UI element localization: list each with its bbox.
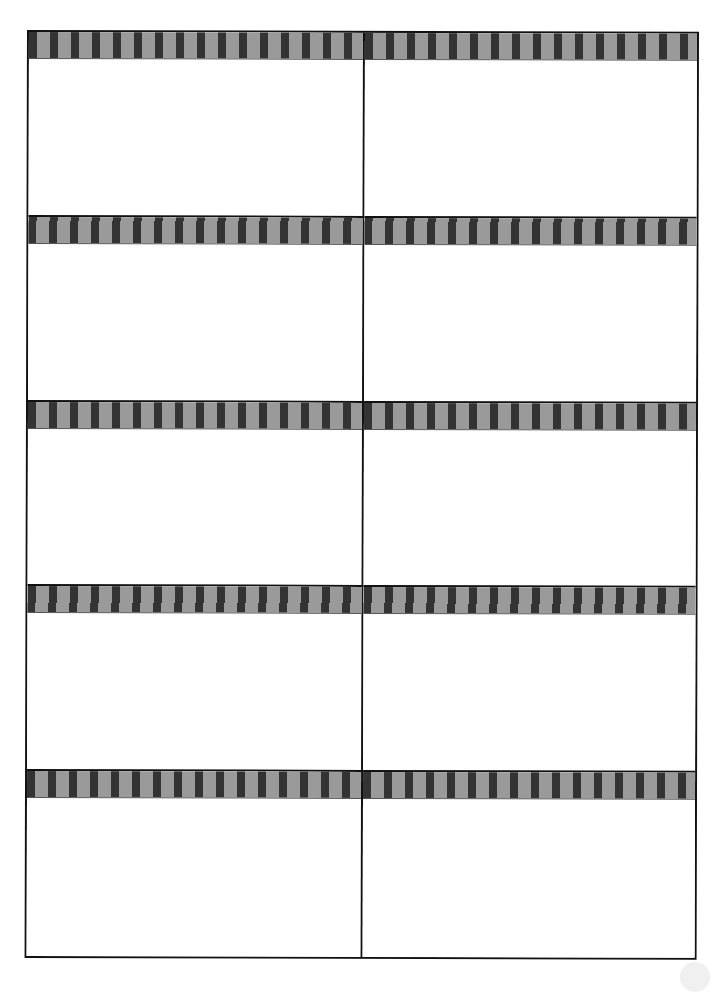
label-r5-c2: [363, 772, 695, 958]
striped-header-band: [363, 587, 695, 615]
striped-header-band: [364, 218, 696, 246]
label-body: [29, 59, 363, 216]
label-r1-c1: [29, 32, 365, 218]
striped-header-band: [364, 402, 696, 430]
label-body: [27, 798, 361, 957]
label-body: [365, 60, 697, 217]
label-r2-c1: [28, 217, 364, 403]
label-r2-c2: [364, 218, 696, 404]
striped-header-band: [28, 217, 362, 245]
striped-header-band: [27, 586, 361, 614]
label-body: [28, 244, 362, 401]
striped-header-band: [365, 33, 697, 61]
label-r4-c1: [27, 586, 363, 772]
scan-artifact-circle: [680, 962, 710, 992]
striped-header-band: [27, 771, 361, 799]
label-r5-c1: [27, 771, 363, 957]
label-r1-c2: [365, 33, 697, 219]
label-r3-c1: [28, 402, 364, 588]
striped-header-band: [29, 32, 363, 60]
label-body: [363, 799, 695, 958]
label-body: [364, 429, 696, 586]
label-r4-c2: [363, 587, 695, 773]
label-body: [28, 429, 362, 586]
label-body: [27, 613, 361, 770]
label-body: [363, 614, 695, 771]
label-body: [364, 245, 696, 402]
label-sheet: [25, 30, 699, 960]
striped-header-band: [363, 772, 695, 800]
striped-header-band: [28, 402, 362, 430]
label-r3-c2: [364, 402, 696, 588]
